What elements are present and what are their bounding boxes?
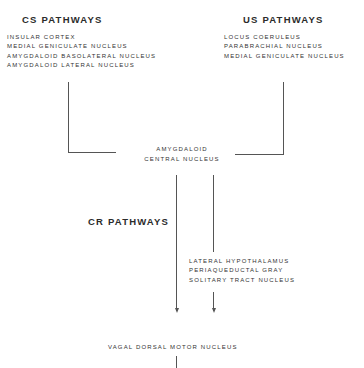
cr-pathway-item: PERIAQUEDUCTAL GRAY (189, 266, 295, 275)
us-pathway-item: LOCUS COERULEUS (224, 33, 345, 42)
us-pathway-item: MEDIAL GENICULATE NUCLEUS (224, 52, 345, 61)
arrow-down-icon (212, 308, 216, 313)
us-connector-vertical (283, 82, 284, 154)
output-node-label: VAGAL DORSAL MOTOR NUCLEUS (108, 343, 238, 352)
lateral-pathway-line-upper (213, 175, 214, 252)
cs-pathway-item: AMYGDALOID LATERAL NUCLEUS (7, 61, 156, 70)
central-node-line1: AMYGDALOID (0, 145, 364, 154)
arrow-down-icon (175, 308, 179, 313)
cs-pathway-item: MEDIAL GENICULATE NUCLEUS (7, 42, 156, 51)
cr-pathway-item: LATERAL HYPOTHALAMUS (189, 257, 295, 266)
cs-pathway-item: AMYGDALOID BASOLATERAL NUCLEUS (7, 52, 156, 61)
us-pathways-list: LOCUS COERULEUS PARABRACHIAL NUCLEUS MED… (224, 33, 345, 61)
us-pathway-item: PARABRACHIAL NUCLEUS (224, 42, 345, 51)
output-line (176, 356, 177, 368)
cr-pathways-list: LATERAL HYPOTHALAMUS PERIAQUEDUCTAL GRAY… (189, 257, 295, 285)
cs-connector-vertical (68, 82, 69, 152)
cs-pathways-list: INSULAR CORTEX MEDIAL GENICULATE NUCLEUS… (7, 33, 156, 70)
cs-pathways-title: CS PATHWAYS (22, 14, 103, 25)
cs-pathway-item: INSULAR CORTEX (7, 33, 156, 42)
central-node-line2: CENTRAL NUCLEUS (0, 155, 364, 164)
direct-pathway-line (176, 175, 177, 311)
cr-pathway-item: SOLITARY TRACT NUCLEUS (189, 276, 295, 285)
cr-pathways-title: CR PATHWAYS (88, 216, 169, 227)
us-pathways-title: US PATHWAYS (243, 14, 324, 25)
